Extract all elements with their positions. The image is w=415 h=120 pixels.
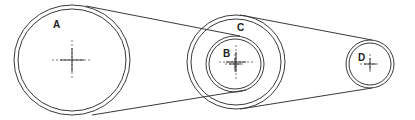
- center-crosshair-icon: [52, 40, 92, 80]
- belt-line: [240, 15, 372, 40]
- pulley-label: A: [53, 19, 60, 30]
- pulley-belt-diagram: ACBD: [0, 0, 415, 120]
- pulleys: ACBD: [14, 5, 394, 115]
- pulley-b: B: [206, 36, 264, 92]
- belts: [86, 6, 372, 115]
- belt-line: [86, 6, 240, 36]
- pulley-label: B: [223, 48, 230, 59]
- pulley-label: D: [358, 52, 365, 63]
- pulley-d: D: [346, 40, 394, 88]
- pulley-a: A: [14, 5, 130, 115]
- pulley-c: C: [187, 15, 285, 109]
- belt-line: [92, 90, 246, 115]
- pulley-label: C: [237, 22, 244, 33]
